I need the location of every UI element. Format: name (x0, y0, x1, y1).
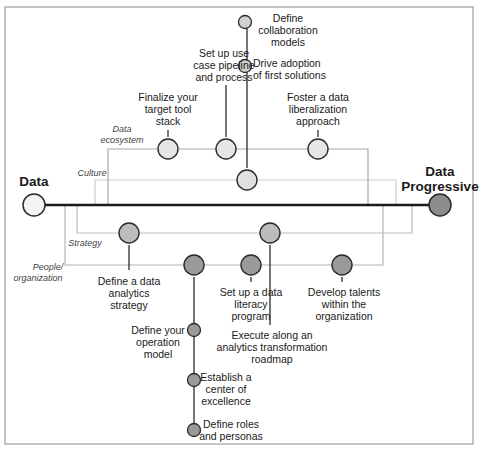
label-use-case: Set up use case pipeline and process (193, 47, 254, 83)
track-people (65, 205, 383, 265)
track-label-data-1: Data (112, 124, 131, 134)
label-liberalization: Foster a data liberalization approach (287, 91, 349, 127)
node-roadmap[interactable] (260, 223, 280, 243)
label-talents: Develop talents within the organization (308, 286, 380, 322)
label-adoption: Drive adoption of first solutions (253, 57, 326, 81)
svg-text:roadmap: roadmap (251, 353, 293, 365)
svg-text:Develop talents: Develop talents (308, 286, 380, 298)
node-liberalization[interactable] (308, 139, 328, 159)
svg-text:center of: center of (206, 383, 247, 395)
svg-text:Define roles: Define roles (203, 418, 259, 430)
svg-text:operation: operation (136, 336, 180, 348)
svg-text:Execute along an: Execute along an (231, 329, 312, 341)
svg-text:within the: within the (321, 298, 367, 310)
track-label-data-2: ecosystem (100, 135, 144, 145)
svg-text:Define your: Define your (131, 324, 185, 336)
label-literacy: Set up a data literacy program (220, 286, 283, 322)
track-label-people-2: organization (13, 273, 62, 283)
node-culture[interactable] (237, 170, 257, 190)
node-talents[interactable] (332, 255, 352, 275)
node-people-hub[interactable] (184, 255, 204, 275)
label-coe: Establish a center of excellence (200, 371, 252, 407)
node-collaboration[interactable] (239, 16, 252, 29)
label-analytics-strategy: Define a data analytics strategy (98, 275, 161, 311)
label-collaboration: Define collaboration models (258, 12, 318, 48)
svg-text:Foster a data: Foster a data (287, 91, 349, 103)
node-use-case[interactable] (216, 139, 236, 159)
svg-text:and personas: and personas (199, 430, 263, 442)
connectors (129, 22, 342, 430)
svg-text:Define: Define (273, 12, 304, 24)
data-active-node[interactable] (23, 194, 45, 216)
data-progressive-label-2: Progressive (401, 179, 479, 194)
svg-text:liberalization: liberalization (289, 103, 348, 115)
data-active-label-1: Data (19, 174, 49, 189)
svg-text:analytics: analytics (109, 287, 150, 299)
svg-text:approach: approach (296, 115, 340, 127)
label-roles: Define roles and personas (199, 418, 263, 442)
svg-text:target tool: target tool (145, 103, 192, 115)
label-roadmap: Execute along an analytics transformatio… (217, 329, 328, 365)
svg-text:Set up use: Set up use (199, 47, 249, 59)
svg-text:of first solutions: of first solutions (253, 69, 326, 81)
label-tool-stack: Finalize your target tool stack (138, 91, 198, 127)
data-progressive-label-1: Data (425, 164, 455, 179)
data-progressive-node[interactable] (429, 194, 451, 216)
track-label-culture: Culture (77, 168, 106, 178)
svg-text:analytics transformation: analytics transformation (217, 341, 328, 353)
svg-text:literacy: literacy (234, 298, 268, 310)
svg-text:collaboration: collaboration (258, 24, 318, 36)
node-coe[interactable] (188, 374, 201, 387)
svg-text:and process: and process (195, 71, 252, 83)
svg-text:stack: stack (156, 115, 181, 127)
svg-text:Establish a: Establish a (200, 371, 252, 383)
track-label-strategy: Strategy (68, 238, 102, 248)
node-literacy[interactable] (241, 255, 261, 275)
svg-text:Drive adoption: Drive adoption (253, 57, 321, 69)
transformation-roadmap-diagram: Data Active Data Progressive Data ecosys… (0, 0, 483, 453)
node-analytics-strategy[interactable] (119, 223, 139, 243)
svg-text:program: program (231, 310, 270, 322)
label-operation-model: Define your operation model (131, 324, 185, 360)
svg-text:Finalize your: Finalize your (138, 91, 198, 103)
node-operation-model[interactable] (188, 324, 201, 337)
svg-text:models: models (271, 36, 305, 48)
svg-text:case pipeline: case pipeline (193, 59, 254, 71)
track-label-people-1: People/ (33, 262, 65, 272)
svg-text:model: model (144, 348, 173, 360)
node-tool-stack[interactable] (158, 139, 178, 159)
svg-text:strategy: strategy (110, 299, 148, 311)
svg-text:Set up a data: Set up a data (220, 286, 283, 298)
svg-text:organization: organization (315, 310, 372, 322)
svg-text:Define a data: Define a data (98, 275, 161, 287)
svg-text:excellence: excellence (201, 395, 251, 407)
